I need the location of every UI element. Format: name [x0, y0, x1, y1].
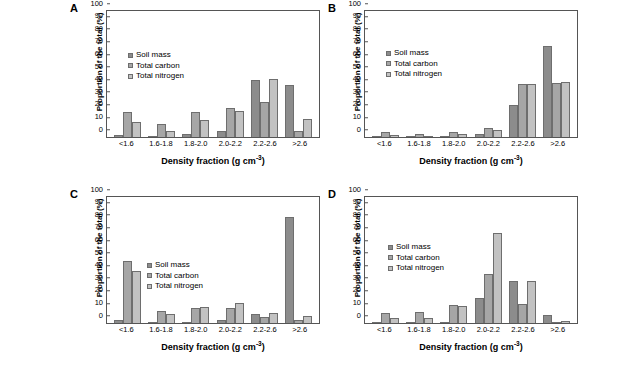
y-tick-label: 10	[353, 113, 365, 121]
bar[interactable]	[527, 84, 536, 137]
bar[interactable]	[294, 320, 303, 323]
y-tick-label: 70	[95, 224, 107, 232]
bar[interactable]	[166, 314, 175, 323]
bar[interactable]	[518, 304, 527, 323]
legend-item: Total nitrogen	[128, 71, 184, 82]
bar[interactable]	[260, 102, 269, 137]
bar[interactable]	[449, 132, 458, 137]
bar-group	[282, 197, 316, 323]
bar[interactable]	[217, 320, 226, 323]
bar[interactable]	[561, 321, 570, 323]
bar[interactable]	[493, 130, 502, 137]
bar[interactable]	[166, 131, 175, 137]
bar[interactable]	[424, 318, 433, 323]
y-tick-label: 30	[353, 88, 365, 96]
bar[interactable]	[132, 122, 141, 137]
bar[interactable]	[381, 132, 390, 137]
bar[interactable]	[406, 322, 415, 323]
bar[interactable]	[475, 134, 484, 137]
bar[interactable]	[191, 308, 200, 323]
bar[interactable]	[235, 303, 244, 323]
legend-label: Total carbon	[396, 253, 440, 264]
bar[interactable]	[114, 320, 123, 323]
x-tick-label: <1.6	[109, 139, 144, 148]
bar[interactable]	[543, 46, 552, 137]
bar[interactable]	[260, 317, 269, 323]
bar[interactable]	[449, 305, 458, 323]
bar[interactable]	[217, 131, 226, 137]
y-tick-label: 50	[353, 249, 365, 257]
bar[interactable]	[552, 322, 561, 323]
bar[interactable]	[200, 120, 209, 137]
bar[interactable]	[415, 134, 424, 137]
bar[interactable]	[269, 313, 278, 323]
bar[interactable]	[285, 217, 294, 323]
bar[interactable]	[123, 112, 132, 137]
bar[interactable]	[440, 136, 449, 137]
legend-item: Total nitrogen	[147, 281, 203, 292]
x-tick-label: <1.6	[367, 325, 402, 334]
bar[interactable]	[285, 85, 294, 137]
bar[interactable]	[132, 271, 141, 323]
bar[interactable]	[251, 314, 260, 323]
bar[interactable]	[475, 298, 484, 323]
bar[interactable]	[406, 136, 415, 137]
bar[interactable]	[182, 134, 191, 137]
y-tick-label: 40	[353, 75, 365, 83]
x-tick-label: 2.0-2.2	[471, 325, 506, 334]
bar[interactable]	[157, 124, 166, 137]
bar[interactable]	[294, 131, 303, 137]
bar[interactable]	[458, 306, 467, 323]
legend-swatch-icon	[386, 61, 391, 66]
bar[interactable]	[424, 136, 433, 137]
x-tick-label: <1.6	[109, 325, 144, 334]
bar[interactable]	[303, 119, 312, 137]
x-axis-label: Density fraction (g cm-3)	[364, 340, 578, 352]
bar[interactable]	[200, 307, 209, 323]
x-tick-label: >2.6	[540, 325, 575, 334]
bar[interactable]	[226, 108, 235, 137]
bar[interactable]	[390, 135, 399, 137]
bar[interactable]	[543, 315, 552, 323]
bar[interactable]	[157, 311, 166, 323]
legend-item: Soil mass	[388, 242, 444, 253]
bar[interactable]	[458, 134, 467, 137]
bar[interactable]	[148, 136, 157, 137]
bar[interactable]	[123, 261, 132, 323]
y-tick-label: 20	[353, 287, 365, 295]
bar[interactable]	[191, 112, 200, 137]
legend: Soil massTotal carbonTotal nitrogen	[388, 242, 444, 274]
bar[interactable]	[390, 318, 399, 323]
y-tick-label: 30	[95, 274, 107, 282]
bar[interactable]	[440, 322, 449, 324]
bar[interactable]	[381, 313, 390, 323]
bar[interactable]	[372, 322, 381, 323]
bar-group	[505, 11, 539, 137]
bar[interactable]	[561, 82, 570, 137]
bar[interactable]	[415, 312, 424, 323]
bar[interactable]	[484, 128, 493, 137]
y-tick-label: 0	[357, 312, 365, 320]
legend-item: Total carbon	[386, 59, 442, 70]
bar[interactable]	[372, 136, 381, 137]
y-tick-label: 90	[95, 198, 107, 206]
bar[interactable]	[114, 135, 123, 137]
bar[interactable]	[235, 111, 244, 137]
x-tick-label: 2.0-2.2	[213, 139, 248, 148]
bar[interactable]	[226, 308, 235, 323]
bar[interactable]	[552, 83, 561, 137]
bar[interactable]	[493, 233, 502, 323]
bar[interactable]	[182, 322, 191, 324]
bar[interactable]	[509, 105, 518, 138]
bar[interactable]	[518, 84, 527, 137]
bar[interactable]	[251, 80, 260, 137]
bar[interactable]	[269, 79, 278, 137]
bar[interactable]	[509, 281, 518, 323]
bar-group	[213, 11, 247, 137]
legend-item: Soil mass	[386, 48, 442, 59]
bar[interactable]	[484, 274, 493, 323]
bar[interactable]	[527, 281, 536, 323]
bar[interactable]	[303, 316, 312, 323]
x-tick-label: >2.6	[282, 139, 317, 148]
bar[interactable]	[148, 322, 157, 323]
